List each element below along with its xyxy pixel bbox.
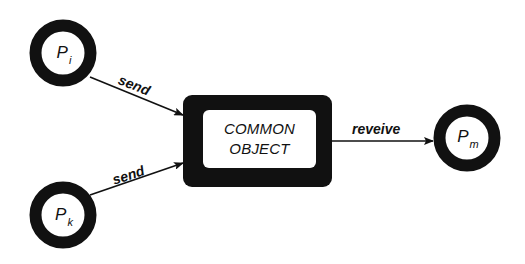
edge-label-receive: reveive (352, 122, 400, 136)
common-object-label-line1: COMMON (224, 119, 295, 139)
process-label-pi: Pi (57, 44, 72, 66)
process-label-pk: Pk (55, 206, 73, 228)
process-label-pi-main: P (57, 43, 68, 62)
common-object-label-line2: OBJECT (229, 139, 289, 159)
process-label-pk-sub: k (67, 216, 73, 228)
process-label-pm: Pm (457, 128, 479, 150)
process-label-pm-sub: m (470, 138, 479, 150)
process-label-pk-main: P (55, 205, 66, 224)
process-label-pm-main: P (457, 127, 468, 146)
process-label-pi-sub: i (69, 54, 71, 66)
common-object-label: COMMON OBJECT (203, 110, 316, 168)
